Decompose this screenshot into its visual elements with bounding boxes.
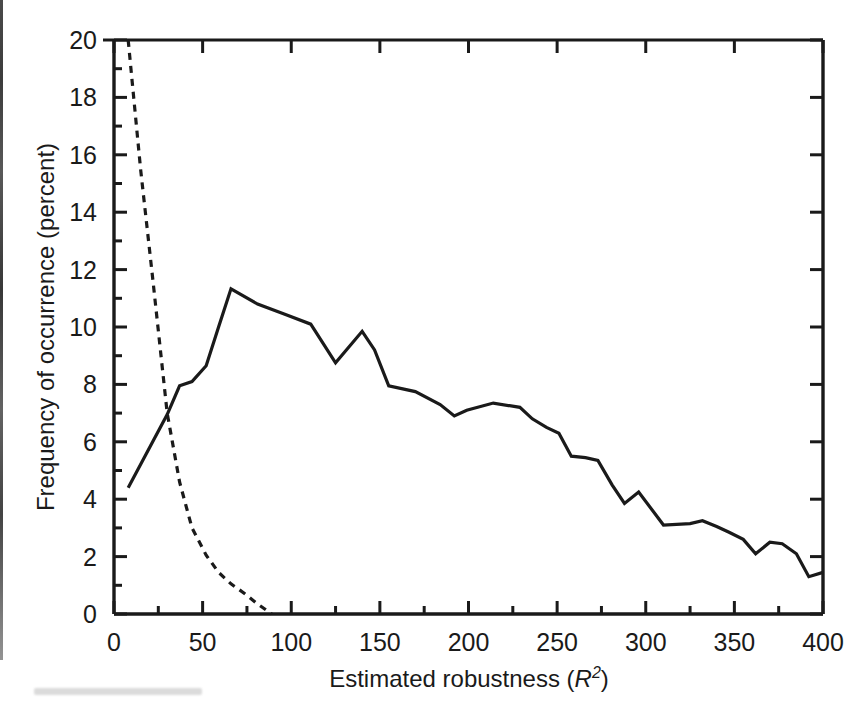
x-axis-title-symbol: R [575, 665, 592, 692]
y-tick-label: 14 [69, 198, 97, 226]
x-axis-title-superscript: 2 [591, 664, 601, 681]
line-chart: 050100150200250300350400 024681012141618… [0, 0, 859, 715]
x-tick-label: 100 [270, 628, 312, 656]
figure-container: 050100150200250300350400 024681012141618… [0, 0, 859, 715]
y-tick-label: 18 [69, 83, 97, 111]
y-tick-label: 20 [69, 26, 97, 54]
x-axis-title-prefix: Estimated robustness ( [329, 665, 574, 692]
x-tick-label: 50 [189, 628, 217, 656]
series-dashed-distribution [128, 40, 272, 614]
x-tick-labels-group: 050100150200250300350400 [107, 628, 844, 656]
y-tick-label: 16 [69, 141, 97, 169]
x-axis-title: Estimated robustness (R2) [329, 664, 609, 692]
y-tick-label: 12 [69, 256, 97, 284]
x-tick-label: 250 [536, 628, 578, 656]
y-tick-label: 4 [83, 485, 97, 513]
y-tick-label: 10 [69, 313, 97, 341]
x-tick-label: 400 [802, 628, 844, 656]
y-tick-label: 2 [83, 543, 97, 571]
x-tick-label: 0 [107, 628, 121, 656]
x-tick-label: 300 [625, 628, 667, 656]
y-axis-title: Frequency of occurrence (percent) [32, 143, 59, 511]
y-tick-labels-group: 02468101214161820 [69, 26, 97, 628]
data-series-group [128, 40, 823, 614]
y-tick-label: 6 [83, 428, 97, 456]
x-tick-label: 350 [714, 628, 756, 656]
y-tick-label: 8 [83, 370, 97, 398]
x-tick-label: 150 [359, 628, 401, 656]
series-solid-distribution [128, 289, 823, 577]
tick-marks-group [103, 40, 823, 614]
y-tick-label: 0 [83, 600, 97, 628]
x-tick-label: 200 [448, 628, 490, 656]
x-axis-title-suffix: ) [601, 665, 609, 692]
